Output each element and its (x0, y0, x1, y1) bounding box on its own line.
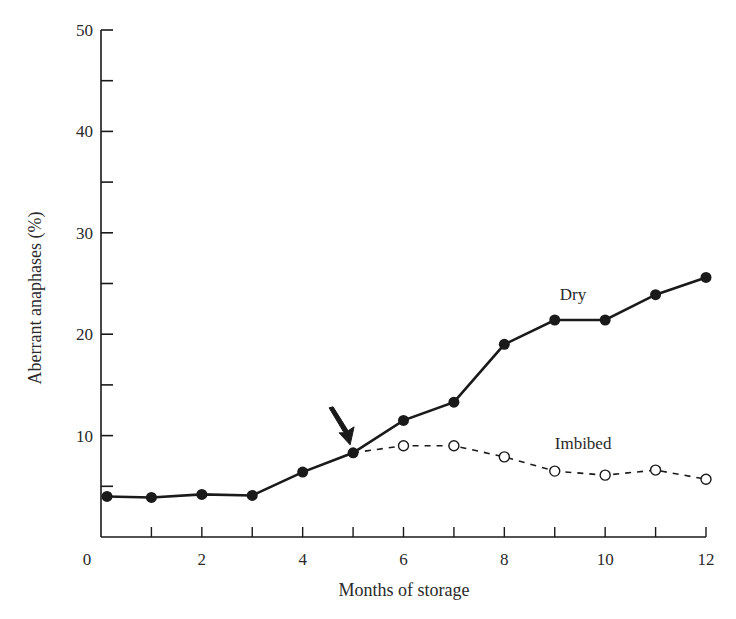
x-tick-label: 0 (83, 550, 92, 569)
y-tick-label: 10 (76, 427, 93, 446)
x-tick-label: 12 (698, 550, 715, 569)
y-ticks: 1020304050 (76, 21, 113, 486)
data-point-open (550, 466, 560, 476)
data-point-filled (196, 489, 207, 500)
annotation-layer (329, 407, 354, 445)
data-point-open (651, 465, 661, 475)
x-axis-label: Months of storage (339, 580, 470, 600)
series-dry: Dry (102, 272, 712, 503)
x-ticks: 024681012 (83, 527, 715, 569)
series-label-imbibed: Imbibed (555, 434, 612, 453)
data-point-open (449, 441, 459, 451)
y-tick-label: 40 (76, 122, 93, 141)
data-point-filled (297, 467, 308, 478)
data-point-filled (348, 447, 359, 458)
y-axis-label: Aberrant anaphases (%) (25, 212, 46, 385)
data-point-filled (102, 491, 113, 502)
data-point-filled (499, 339, 510, 350)
data-point-filled (247, 490, 258, 501)
data-point-open (701, 474, 711, 484)
series-imbibed: Imbibed (353, 434, 711, 484)
data-point-filled (600, 315, 611, 326)
data-point-filled (549, 315, 560, 326)
line-chart: 1020304050 024681012 ImbibedDry Months o… (0, 0, 736, 619)
data-point-filled (650, 289, 661, 300)
data-point-filled (448, 397, 459, 408)
x-tick-label: 2 (198, 550, 207, 569)
data-point-filled (398, 415, 409, 426)
x-tick-label: 4 (298, 550, 307, 569)
x-tick-label: 8 (500, 550, 509, 569)
series-layer: ImbibedDry (102, 272, 712, 503)
data-point-open (399, 441, 409, 451)
data-point-filled (146, 492, 157, 503)
x-tick-label: 6 (399, 550, 408, 569)
arrow-annotation-icon (329, 407, 354, 445)
data-point-filled (701, 272, 712, 283)
data-point-open (499, 452, 509, 462)
x-tick-label: 10 (597, 550, 614, 569)
series-label-dry: Dry (560, 285, 587, 304)
y-tick-label: 20 (76, 325, 93, 344)
data-point-open (600, 470, 610, 480)
axes: 1020304050 024681012 (76, 21, 715, 569)
y-tick-label: 30 (76, 224, 93, 243)
y-tick-label: 50 (76, 21, 93, 40)
series-line (107, 277, 706, 497)
